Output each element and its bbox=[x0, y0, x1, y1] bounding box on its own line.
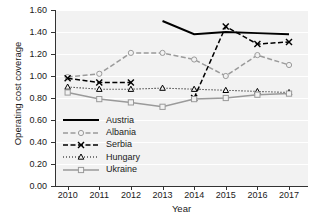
y-tick-label: 0.40 bbox=[0, 137, 47, 147]
x-tick-label: 2015 bbox=[216, 190, 236, 200]
data-point-square bbox=[65, 90, 70, 95]
y-tick-mark bbox=[51, 32, 55, 33]
y-tick-label: 1.40 bbox=[0, 27, 47, 37]
y-tick-mark bbox=[51, 164, 55, 165]
y-tick-mark bbox=[51, 54, 55, 55]
data-point-circle bbox=[160, 50, 165, 55]
data-point-square bbox=[192, 97, 197, 102]
y-tick-label: 0.60 bbox=[0, 115, 47, 125]
data-point-x bbox=[223, 24, 229, 30]
legend-swatch bbox=[62, 139, 100, 151]
y-tick-mark bbox=[51, 142, 55, 143]
data-point-circle bbox=[128, 50, 133, 55]
operating-cost-coverage-chart: 0.000.200.400.600.801.001.201.401.60 201… bbox=[0, 0, 324, 220]
data-point-square bbox=[223, 95, 228, 100]
data-point-triangle bbox=[65, 84, 71, 89]
legend-label: Austria bbox=[106, 116, 134, 125]
legend-label: Serbia bbox=[106, 140, 132, 149]
data-point-square bbox=[128, 100, 133, 105]
y-tick-label: 0.80 bbox=[0, 93, 47, 103]
legend-label: Hungary bbox=[106, 153, 140, 162]
x-axis-line bbox=[55, 186, 308, 187]
y-tick-label: 0.00 bbox=[0, 181, 47, 191]
legend-swatch bbox=[62, 164, 100, 176]
series-albania bbox=[65, 50, 292, 79]
y-axis-title: Operating cost coverage bbox=[12, 14, 23, 174]
legend-item-albania: Albania bbox=[62, 126, 140, 138]
y-axis-line bbox=[55, 10, 56, 186]
x-tick-label: 2017 bbox=[279, 190, 299, 200]
data-point-square bbox=[255, 92, 260, 97]
y-tick-label: 1.00 bbox=[0, 71, 47, 81]
legend-swatch bbox=[62, 114, 100, 126]
legend-item-serbia: Serbia bbox=[62, 139, 140, 151]
x-tick-label: 2010 bbox=[58, 190, 78, 200]
x-tick-label: 2013 bbox=[153, 190, 173, 200]
y-tick-mark bbox=[51, 120, 55, 121]
data-point-triangle bbox=[191, 86, 197, 91]
data-point-circle bbox=[223, 73, 228, 78]
legend-swatch bbox=[62, 151, 100, 163]
y-tick-mark bbox=[51, 10, 55, 11]
data-point-triangle bbox=[78, 154, 84, 159]
y-tick-label: 1.20 bbox=[0, 49, 47, 59]
legend-item-hungary: Hungary bbox=[62, 151, 140, 163]
y-tick-mark bbox=[51, 186, 55, 187]
data-point-circle bbox=[78, 130, 83, 135]
legend-swatch bbox=[62, 127, 100, 139]
legend-label: Ukraine bbox=[106, 165, 137, 174]
y-tick-mark bbox=[51, 98, 55, 99]
data-point-triangle bbox=[160, 85, 166, 90]
chart-legend: AustriaAlbaniaSerbiaHungaryUkraine bbox=[62, 114, 140, 176]
data-point-square bbox=[160, 104, 165, 109]
data-point-circle bbox=[286, 62, 291, 67]
y-tick-label: 1.60 bbox=[0, 5, 47, 15]
x-tick-label: 2016 bbox=[247, 190, 267, 200]
data-point-triangle bbox=[96, 86, 102, 91]
data-point-square bbox=[286, 91, 291, 96]
y-tick-label: 0.20 bbox=[0, 159, 47, 169]
legend-item-austria: Austria bbox=[62, 114, 140, 126]
data-point-square bbox=[78, 167, 83, 172]
series-line bbox=[194, 27, 289, 99]
data-point-triangle bbox=[128, 86, 134, 91]
data-point-circle bbox=[255, 53, 260, 58]
series-ukraine bbox=[65, 90, 292, 109]
data-point-triangle bbox=[223, 87, 229, 92]
y-tick-mark bbox=[51, 76, 55, 77]
x-tick-label: 2012 bbox=[121, 190, 141, 200]
legend-label: Albania bbox=[106, 128, 136, 137]
x-tick-label: 2014 bbox=[184, 190, 204, 200]
x-axis-title: Year bbox=[55, 203, 308, 214]
legend-item-ukraine: Ukraine bbox=[62, 164, 140, 176]
data-point-circle bbox=[192, 57, 197, 62]
x-tick-label: 2011 bbox=[90, 190, 109, 200]
data-point-square bbox=[97, 97, 102, 102]
data-point-circle bbox=[97, 71, 102, 76]
